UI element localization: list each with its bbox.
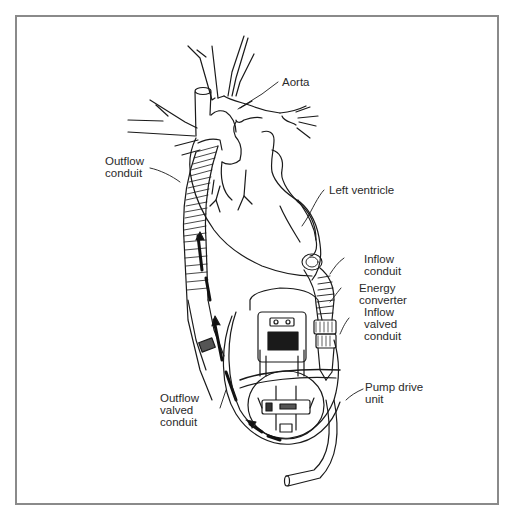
label-inflow-valved-conduit: Inflowvalvedconduit <box>364 306 401 342</box>
label-inflow-conduit-line2: conduit <box>364 265 401 277</box>
lvad-heart-illustration <box>0 0 514 519</box>
left-ventricle <box>280 200 317 256</box>
pump-housing <box>223 288 340 444</box>
label-outflow-conduit-line1: Outflow <box>105 155 144 167</box>
label-inflow-valved-conduit-line1: Inflow <box>364 306 394 318</box>
label-inflow-valved-conduit-line3: conduit <box>364 330 401 342</box>
label-outflow-valved-conduit-line3: conduit <box>160 416 197 428</box>
label-energy-converter-line2: converter <box>359 294 407 306</box>
label-inflow-valved-conduit-line2: valved <box>364 318 397 330</box>
leader-lines <box>150 82 363 408</box>
inflow-conduit <box>302 254 334 320</box>
label-outflow-valved-conduit-line1: Outflow <box>160 392 199 404</box>
inflow-valved-conduit <box>314 320 336 380</box>
heart-outline <box>190 122 321 280</box>
great-vessels <box>128 36 318 155</box>
label-pump-drive-unit-line1: Pump drive <box>365 381 423 393</box>
label-outflow-conduit-line2: conduit <box>105 167 142 179</box>
label-pump-drive-unit: Pump driveunit <box>365 381 423 405</box>
label-inflow-conduit-line1: Inflow <box>364 253 394 265</box>
label-energy-converter: Energyconverter <box>359 282 407 306</box>
label-aorta: Aorta <box>282 76 310 88</box>
label-outflow-conduit: Outflowconduit <box>105 155 144 179</box>
label-energy-converter-line1: Energy <box>359 282 395 294</box>
label-outflow-valved-conduit: Outflowvalvedconduit <box>160 392 199 428</box>
label-left-ventricle: Left ventricle <box>329 184 394 196</box>
label-outflow-valved-conduit-line2: valved <box>160 404 193 416</box>
label-inflow-conduit: Inflowconduit <box>364 253 401 277</box>
label-pump-drive-unit-line2: unit <box>365 393 384 405</box>
